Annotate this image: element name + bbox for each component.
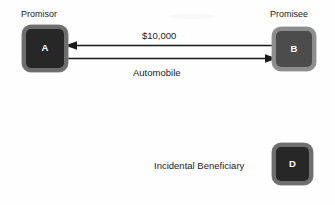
arrow-consideration bbox=[66, 54, 277, 63]
node-d-incidental-beneficiary[interactable]: D bbox=[272, 143, 313, 185]
node-d-letter: D bbox=[289, 159, 296, 169]
incidental-beneficiary-label: Incidental Beneficiary bbox=[154, 161, 244, 171]
edge-label-payment: $10,000 bbox=[142, 31, 176, 41]
arrow-payment bbox=[65, 41, 274, 50]
promisor-label: Promisor bbox=[21, 10, 57, 19]
edge-label-consideration: Automobile bbox=[133, 68, 181, 78]
promisee-label: Promisee bbox=[270, 10, 308, 19]
node-a-letter: A bbox=[41, 43, 48, 53]
node-b-letter: B bbox=[290, 44, 297, 54]
node-a-promisor[interactable]: A bbox=[22, 25, 68, 72]
node-b-promisee[interactable]: B bbox=[272, 27, 316, 71]
diagram-canvas: Promisor Promisee $10,000 Automobile Inc… bbox=[0, 0, 335, 205]
